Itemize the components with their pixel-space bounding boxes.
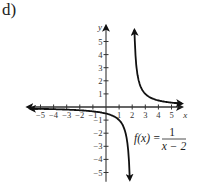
function-label-denominator: x − 2 — [161, 140, 187, 152]
x-tick-label: −3 — [62, 110, 71, 120]
x-tick-label: 4 — [156, 110, 161, 120]
x-tick-label: 5 — [169, 110, 173, 120]
y-tick-label: 3 — [98, 63, 102, 73]
x-axis-label: x — [182, 110, 187, 120]
x-tick-label: 3 — [143, 110, 147, 120]
x-tick-label: −4 — [49, 110, 59, 120]
x-tick-label: −2 — [75, 110, 84, 120]
right-branch-arrow — [174, 103, 182, 104]
y-tick-label: −3 — [93, 141, 102, 151]
right-branch-curve — [134, 30, 178, 103]
y-tick-label: 4 — [98, 50, 103, 60]
x-tick-label: −5 — [36, 110, 45, 120]
y-tick-label: −5 — [93, 168, 102, 178]
y-tick-label: 5 — [98, 37, 102, 47]
y-axis-label: y — [97, 22, 102, 32]
y-tick-label: −2 — [93, 128, 102, 138]
x-tick-label: 2 — [130, 110, 134, 120]
y-tick-label: −1 — [93, 115, 102, 125]
y-tick-label: 1 — [98, 89, 102, 99]
function-label-numerator: 1 — [169, 126, 175, 138]
y-tick-label: −4 — [93, 154, 103, 164]
y-tick-label: 2 — [98, 76, 102, 86]
function-label-lhs: f(x) = — [134, 132, 161, 145]
function-graph: −5−4−3−2−112345−5−4−3−2−112345xyf(x) =1x… — [0, 0, 197, 195]
